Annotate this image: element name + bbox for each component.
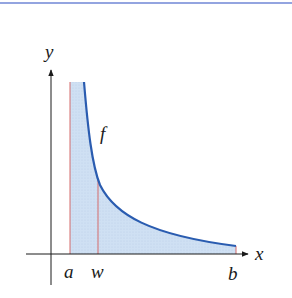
figure: y x f a w b [0, 0, 292, 298]
x-axis-label: x [254, 243, 264, 264]
label-w: w [91, 261, 104, 282]
label-a: a [64, 261, 74, 282]
curve-label-f: f [100, 123, 108, 144]
y-axis-label: y [43, 41, 54, 62]
label-b: b [228, 263, 238, 284]
